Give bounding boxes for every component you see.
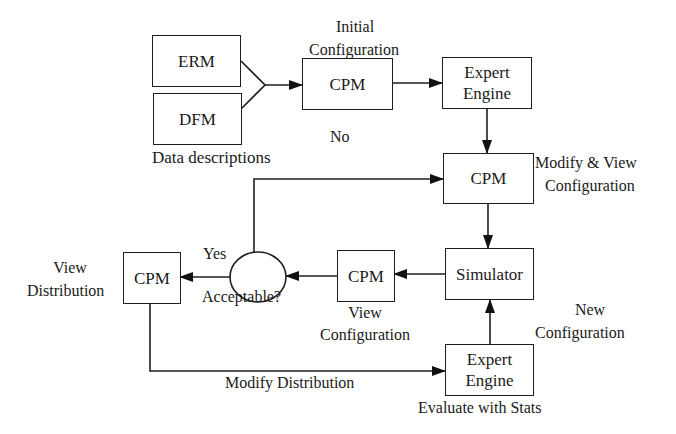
new-config-label-1: New <box>560 300 620 320</box>
expert-engine-bottom-line2: Engine <box>465 370 513 391</box>
cpm-initial-label: CPM <box>330 74 366 95</box>
view-config-label-2: Configuration <box>313 325 417 345</box>
modify-view-label-2: Configuration <box>545 176 635 196</box>
expert-engine-bottom-line1: Expert <box>467 349 512 370</box>
yes-label: Yes <box>203 244 226 264</box>
acceptable-label: Acceptable? <box>202 287 281 307</box>
view-config-label-1: View <box>340 303 390 323</box>
dfm-label: DFM <box>179 109 216 130</box>
new-config-label-2: Configuration <box>535 323 625 343</box>
dfm-box: DFM <box>153 93 242 145</box>
cpm-modify-box: CPM <box>443 153 534 204</box>
modify-view-label-1: Modify & View <box>535 153 637 173</box>
view-dist-label-1: View <box>40 258 100 278</box>
initial-label: Initial <box>335 17 375 37</box>
cpm-view-config-label: CPM <box>348 266 384 287</box>
cpm-modify-label: CPM <box>471 168 507 189</box>
cpm-view-config-box: CPM <box>337 250 395 302</box>
evaluate-stats-label: Evaluate with Stats <box>418 398 542 418</box>
cpm-initial-box: CPM <box>302 58 393 110</box>
arrow-no-to-cpm-modify <box>254 179 443 252</box>
expert-engine-top-box: Expert Engine <box>442 57 532 109</box>
expert-engine-top-line1: Expert <box>464 62 509 83</box>
erm-label: ERM <box>178 51 215 72</box>
expert-engine-top-line2: Engine <box>463 83 511 104</box>
configuration-label: Configuration <box>300 40 408 60</box>
modify-distribution-label: Modify Distribution <box>225 373 354 393</box>
no-label: No <box>330 127 350 147</box>
cpm-view-dist-box: CPM <box>123 252 181 304</box>
erm-merge-line <box>241 61 265 109</box>
view-dist-label-2: Distribution <box>27 281 104 301</box>
simulator-label: Simulator <box>456 264 523 285</box>
data-descriptions-label: Data descriptions <box>152 148 271 168</box>
simulator-box: Simulator <box>445 248 534 300</box>
expert-engine-bottom-box: Expert Engine <box>445 344 534 396</box>
erm-box: ERM <box>152 35 241 87</box>
cpm-view-dist-label: CPM <box>134 268 170 289</box>
